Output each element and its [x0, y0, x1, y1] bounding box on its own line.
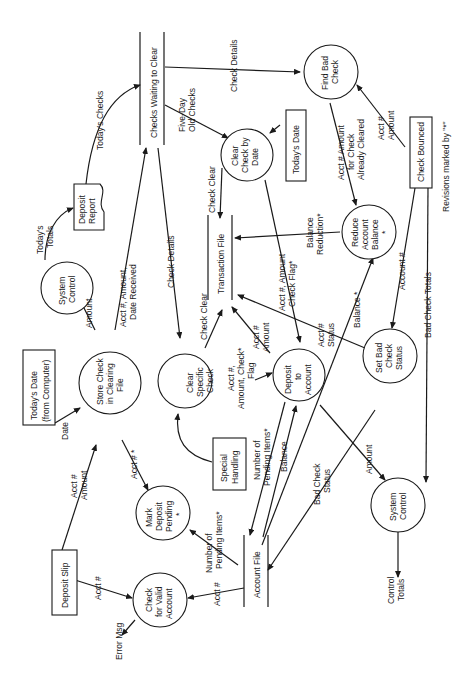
svg-text:Account: Account: [164, 588, 174, 619]
svg-text:Pending: Pending: [164, 501, 174, 532]
data-flow-diagram: Checks Waiting to Clear Transaction File…: [0, 0, 461, 677]
process-check-valid-account: Check for Valid Account: [133, 573, 187, 627]
svg-text:Balance: Balance: [370, 219, 380, 250]
svg-text:Amount, Check*: Amount, Check*: [236, 347, 246, 409]
svg-text:Acct # *: Acct # *: [129, 449, 139, 479]
svg-text:Check: Check: [205, 368, 215, 393]
svg-text:File: File: [115, 378, 125, 392]
svg-text:Acct #, Amount: Acct #, Amount: [277, 253, 287, 311]
external-deposit-slip: Deposit Slip: [52, 550, 77, 615]
document-deposit-report: Deposit Report: [74, 184, 104, 230]
svg-text:Control: Control: [398, 492, 408, 520]
svg-text:Checks Waiting to Clear: Checks Waiting to Clear: [149, 47, 159, 138]
svg-text:Reduce: Reduce: [350, 217, 360, 247]
svg-text:Store Check: Store Check: [95, 357, 105, 405]
svg-text:Acct #,: Acct #,: [226, 365, 236, 391]
svg-text:to: to: [293, 373, 303, 380]
svg-text:Acct #, Amount,: Acct #, Amount,: [118, 267, 128, 327]
svg-text:Date: Date: [250, 148, 260, 166]
svg-text:Check Clear: Check Clear: [207, 166, 217, 213]
svg-text:Amount: Amount: [84, 298, 94, 328]
svg-text:Handling: Handling: [230, 450, 240, 484]
svg-text:Date: Date: [60, 422, 70, 440]
svg-text:Five-Day: Five-Day: [177, 97, 187, 132]
svg-text:Check Details: Check Details: [229, 40, 239, 92]
store-account-file: Account File: [244, 535, 268, 607]
svg-text:Balance: Balance: [305, 217, 315, 248]
svg-text:Account File: Account File: [252, 551, 262, 598]
svg-text:Bad Check: Bad Check: [312, 463, 322, 505]
svg-text:Special: Special: [219, 454, 229, 482]
revisions-note: Revisions marked by "*": [441, 121, 451, 212]
svg-text:Clear: Clear: [185, 373, 195, 393]
svg-text:Deposit: Deposit: [154, 502, 164, 531]
external-special-handling: Special Handling: [213, 438, 246, 490]
process-store-check: Store Check in Clearing File: [79, 352, 141, 414]
svg-text:Acct #: Acct #: [251, 325, 261, 349]
svg-text:Today's Date: Today's Date: [291, 125, 301, 174]
svg-text:Number of: Number of: [252, 440, 262, 480]
svg-text:Amount: Amount: [364, 444, 374, 474]
svg-text:Control: Control: [386, 576, 396, 604]
svg-text:Today's Checks: Today's Checks: [95, 91, 105, 150]
svg-text:Deposit: Deposit: [77, 195, 87, 224]
svg-text:Date Received: Date Received: [128, 264, 138, 320]
svg-text:Amount: Amount: [386, 110, 396, 140]
svg-text:Acct #: Acct #: [376, 116, 386, 140]
external-todays-date-computer: Today's Date (from Computer): [23, 350, 55, 425]
process-system-control-bottom: System Control: [371, 478, 425, 532]
svg-text:Transaction File: Transaction File: [216, 234, 226, 294]
svg-text:Today's: Today's: [35, 225, 45, 254]
svg-text:Check: Check: [144, 587, 154, 612]
svg-text:Old Checks: Old Checks: [187, 88, 197, 132]
svg-text:Report: Report: [87, 198, 97, 224]
svg-text:Check by: Check by: [240, 137, 250, 173]
svg-text:Check: Check: [330, 59, 340, 84]
svg-text:Deposit Slip: Deposit Slip: [60, 562, 70, 608]
svg-text:Account: Account: [360, 219, 370, 250]
store-checks-waiting: Checks Waiting to Clear: [140, 32, 164, 145]
svg-text:Check Flag*: Check Flag*: [287, 260, 297, 307]
svg-text:Bad Check Totals: Bad Check Totals: [423, 272, 433, 338]
process-clear-check-by-date: Clear Check by Date: [221, 129, 273, 181]
svg-text:Status: Status: [322, 469, 332, 493]
svg-text:for Check: for Check: [346, 133, 356, 170]
process-mark-deposit-pending: Mark Deposit Pending *: [136, 486, 190, 540]
store-transaction-file: Transaction File: [208, 215, 232, 300]
svg-text:Clear: Clear: [230, 146, 240, 166]
svg-text:Pending Items*: Pending Items*: [214, 511, 224, 569]
svg-text:Amount: Amount: [79, 470, 89, 500]
process-find-bad-check: Find Bad Check: [304, 45, 358, 99]
svg-text:Check Clear: Check Clear: [199, 293, 209, 340]
process-set-bad-check-status: Set Bad Check Status: [363, 329, 417, 383]
svg-text:Already Cleared: Already Cleared: [356, 119, 366, 180]
svg-text:Check: Check: [384, 343, 394, 368]
svg-text:Totals: Totals: [396, 579, 406, 601]
svg-text:Account #: Account #: [397, 252, 407, 290]
svg-text:Amount: Amount: [261, 322, 271, 352]
svg-text:in Clearing: in Clearing: [105, 363, 115, 404]
svg-text:System: System: [57, 277, 67, 305]
svg-text:Acct #: Acct #: [93, 576, 103, 600]
svg-text:for Valid: for Valid: [154, 586, 164, 617]
svg-text:Today's Date: Today's Date: [29, 371, 39, 420]
svg-text:Pending Items*: Pending Items*: [262, 428, 272, 486]
svg-text:Deposit: Deposit: [283, 365, 293, 394]
svg-text:Check Details: Check Details: [166, 236, 176, 288]
svg-text:System: System: [388, 493, 398, 521]
svg-text:Acct #: Acct #: [212, 582, 222, 606]
svg-text:Specific: Specific: [195, 366, 205, 397]
svg-text:Acct #: Acct #: [316, 323, 326, 347]
external-check-bounced: Check Bounced: [410, 117, 432, 188]
svg-text:Reduction*: Reduction*: [315, 213, 325, 255]
svg-text:Status: Status: [326, 323, 336, 347]
svg-text:Account: Account: [303, 364, 313, 395]
svg-text:Find Bad: Find Bad: [320, 56, 330, 90]
svg-text:Mark: Mark: [144, 507, 154, 527]
process-reduce-account-balance: Reduce Account Balance *: [342, 205, 396, 259]
svg-text:Balance: Balance: [279, 441, 289, 472]
svg-text:Set Bad: Set Bad: [374, 342, 384, 373]
svg-text:Totals: Totals: [45, 226, 55, 248]
svg-text:Flag: Flag: [246, 362, 256, 379]
external-todays-date: Today's Date: [286, 110, 306, 181]
